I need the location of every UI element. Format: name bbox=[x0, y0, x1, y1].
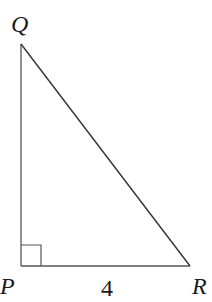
side-length-label-PR: 4 bbox=[101, 275, 113, 301]
right-angle-marker bbox=[21, 245, 41, 266]
vertex-label-P: P bbox=[0, 273, 15, 299]
triangle-diagram: Q P R 4 bbox=[0, 0, 212, 302]
side-QR-hypotenuse bbox=[21, 44, 190, 266]
vertex-label-Q: Q bbox=[11, 11, 28, 37]
vertex-label-R: R bbox=[191, 273, 207, 299]
